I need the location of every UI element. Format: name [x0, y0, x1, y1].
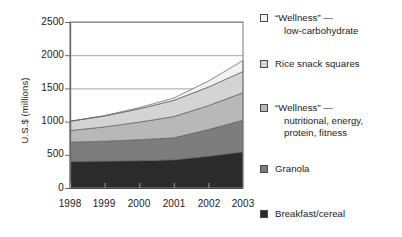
legend-label-line2: nutritional, energy,	[275, 115, 400, 128]
legend-label: “Wellness” — low-carbohydrate	[275, 12, 400, 37]
legend-swatch-icon	[260, 60, 268, 68]
legend-label: “Wellness” — nutritional, energy, protei…	[275, 102, 400, 140]
legend-label-line2: low-carbohydrate	[275, 25, 400, 38]
legend-label-line1: “Wellness” —	[275, 12, 333, 23]
legend-label-line1: Breakfast/cereal	[275, 208, 345, 219]
x-tick-label-1999: 1999	[84, 198, 124, 209]
legend-label: Granola	[275, 163, 400, 176]
legend-swatch-icon	[260, 165, 268, 173]
legend-swatch-icon	[260, 210, 268, 218]
stacked-area-chart: U.S.$ (millions) 2500 2000 1500 1000 500…	[0, 0, 402, 237]
legend-label-line1: “Wellness” —	[275, 102, 333, 113]
legend-swatch-icon	[260, 104, 268, 112]
legend-label-line3: protein, fitness	[275, 127, 400, 140]
legend-label: Rice snack squares	[275, 58, 400, 71]
legend-label-line1: Granola	[275, 163, 309, 174]
x-tick-label-2000: 2000	[119, 198, 159, 209]
legend-label-line1: Rice snack squares	[275, 58, 360, 69]
legend-label: Breakfast/cereal	[275, 208, 400, 221]
x-tick-label-2001: 2001	[154, 198, 194, 209]
legend-swatch-icon	[260, 14, 268, 22]
x-tick-label-2003: 2003	[223, 198, 263, 209]
